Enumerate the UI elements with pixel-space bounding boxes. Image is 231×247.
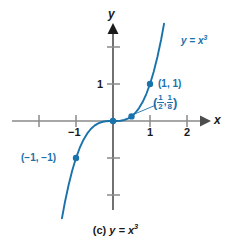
- caption-function-exponent: 3: [134, 222, 138, 231]
- x-tick-label-2: 2: [184, 127, 190, 138]
- point-label-half-eighth: (12,18): [153, 94, 177, 111]
- x-axis-arrowhead: [200, 116, 211, 127]
- figure-caption: (c) y = x3: [0, 224, 231, 236]
- point-label-neg1-neg1: (−1, −1): [21, 153, 56, 163]
- axes-group: [12, 23, 211, 210]
- figure-container: −1 1 2 1 x y y = x3 (1, 1) (−1, −1) (12,…: [0, 0, 231, 247]
- y-tick-label-1: 1: [97, 79, 103, 90]
- point-1-1: [147, 81, 153, 87]
- x-tick-label-1: 1: [147, 127, 153, 138]
- y-axis-label: y: [108, 8, 115, 20]
- caption-index: (c): [93, 224, 106, 236]
- paren-close: ): [173, 95, 177, 110]
- x-tick-label--1: −1: [68, 127, 81, 138]
- point-origin: [110, 118, 116, 124]
- y-axis-arrowhead: [108, 23, 119, 34]
- caption-function: y = x3: [109, 224, 138, 236]
- caption-function-text: y = x: [109, 224, 134, 236]
- point-half-eighth: [128, 113, 134, 119]
- curve-equation-text: y = x: [181, 35, 204, 46]
- curve-equation-label: y = x3: [181, 36, 207, 46]
- x-axis-label: x: [214, 114, 221, 126]
- curve-equation-exponent: 3: [204, 34, 208, 41]
- point-neg1-neg1: [73, 155, 79, 161]
- point-label-1-1: (1, 1): [158, 79, 181, 89]
